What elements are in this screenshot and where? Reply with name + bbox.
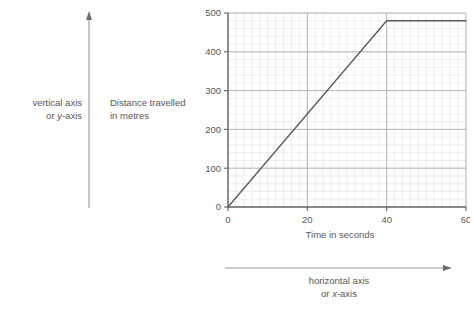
x-axis-title: Time in seconds bbox=[228, 228, 452, 241]
y-axis-title-line2: in metres bbox=[110, 109, 206, 122]
right-arrow-icon bbox=[225, 262, 453, 274]
horizontal-axis-annotation-line2-prefix: or bbox=[321, 288, 332, 299]
y-tick-label: 300 bbox=[205, 85, 221, 96]
vertical-axis-annotation-line2-suffix: -axis bbox=[62, 110, 82, 121]
vertical-axis-annotation-line2: or y-axis bbox=[8, 109, 82, 122]
horizontal-axis-annotation-line1: horizontal axis bbox=[225, 274, 453, 287]
x-tick-label: 20 bbox=[302, 214, 313, 225]
y-axis-title-line1: Distance travelled bbox=[110, 96, 206, 109]
up-arrow-icon bbox=[82, 10, 96, 208]
y-tick-label: 100 bbox=[205, 163, 221, 174]
x-tick-labels: 0204060 bbox=[225, 214, 470, 225]
y-tick-label: 400 bbox=[205, 46, 221, 57]
y-tick-label: 200 bbox=[205, 124, 221, 135]
y-tick-labels: 0100200300400500 bbox=[205, 7, 221, 212]
chart-plot: 0100200300400500 0204060 bbox=[196, 4, 470, 254]
vertical-axis-annotation-line1: vertical axis bbox=[8, 96, 82, 109]
horizontal-axis-annotation-line2-suffix: -axis bbox=[337, 288, 357, 299]
vertical-axis-annotation-line2-prefix: or bbox=[46, 110, 57, 121]
y-axis-title: Distance travelled in metres bbox=[110, 96, 206, 122]
x-tick-label: 0 bbox=[225, 214, 230, 225]
x-tick-label: 40 bbox=[381, 214, 392, 225]
y-tick-label: 500 bbox=[205, 7, 221, 18]
x-tick-label: 60 bbox=[461, 214, 470, 225]
horizontal-axis-annotation-line2: or x-axis bbox=[225, 287, 453, 300]
axis-ticks bbox=[224, 13, 466, 211]
minor-gridlines bbox=[228, 13, 466, 207]
y-tick-label: 0 bbox=[216, 201, 221, 212]
vertical-axis-annotation: vertical axis or y-axis bbox=[8, 96, 82, 122]
horizontal-axis-annotation: horizontal axis or x-axis bbox=[225, 274, 453, 300]
